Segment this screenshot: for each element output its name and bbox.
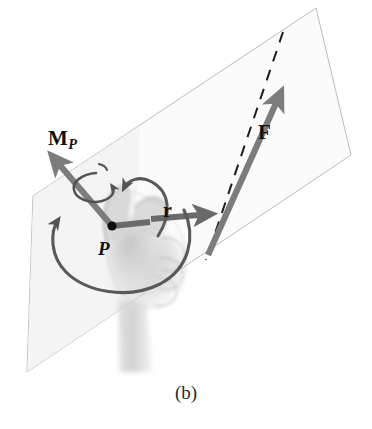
- point-p-label: P: [98, 239, 110, 258]
- force-plane: [27, 8, 351, 372]
- moment-subscript: P: [68, 136, 77, 152]
- position-vector-stem: [112, 222, 150, 226]
- position-vector-label: r: [163, 200, 172, 220]
- force-label: F: [258, 122, 271, 143]
- figure-caption: (b): [0, 382, 372, 404]
- point-p-marker: [107, 221, 116, 230]
- moment-symbol: M: [48, 126, 68, 150]
- moment-label: MP: [48, 128, 77, 151]
- diagram-canvas: [0, 0, 372, 429]
- moment-figure: MP F r P (b): [0, 0, 372, 429]
